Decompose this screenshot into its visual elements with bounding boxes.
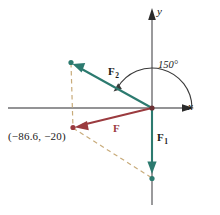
vector-resultant-tip-dot (70, 125, 75, 130)
vector-f1-tip-dot (149, 176, 154, 181)
vector-f1-label-subscript: 1 (164, 137, 168, 146)
y-axis-arrowhead (148, 8, 156, 20)
axes-group (8, 8, 194, 205)
dashed-guide-diagonal (73, 128, 152, 178)
angle-label-150: 150° (158, 60, 178, 71)
vector-f1-label-base: F (157, 131, 164, 143)
vector-resultant-arrowhead (75, 121, 89, 130)
vector-f2-arrowhead (73, 63, 86, 73)
vector-diagram-canvas (0, 0, 220, 215)
coordinate-point-label: (−86.6, −20) (8, 131, 66, 142)
x-axis-label: x (188, 101, 193, 112)
dashed-guide-vertical (71, 63, 73, 128)
vector-f2-label-subscript: 2 (115, 71, 119, 80)
vector-f2-label: F2 (108, 66, 118, 77)
origin-dot (149, 105, 154, 110)
angle-arc-group (114, 68, 193, 108)
vector-resultant-label: F (113, 123, 120, 134)
vector-f1-group (147, 108, 156, 181)
angle-arc-150 (117, 68, 192, 108)
vector-f2-label-base: F (108, 65, 115, 77)
vector-f1-arrowhead (147, 162, 156, 175)
dashed-guides-group (71, 63, 152, 178)
y-axis-label: y (157, 6, 162, 17)
vector-f1-label: F1 (157, 132, 167, 143)
vector-f2-tip-dot (68, 60, 73, 65)
vector-diagram-figure: x y F2 F1 F 150° (−86.6, −20) (0, 0, 220, 215)
